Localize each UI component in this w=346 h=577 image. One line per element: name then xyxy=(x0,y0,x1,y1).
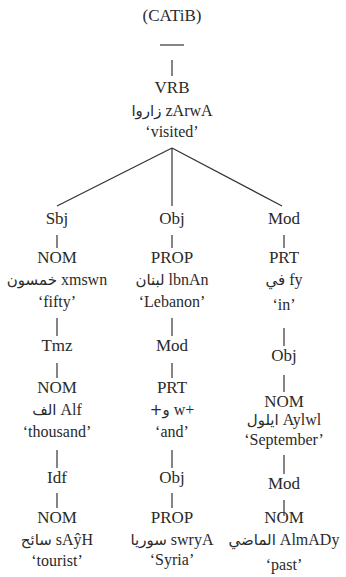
node-tag: NOM xyxy=(37,378,77,398)
translit-text: AlmADy xyxy=(280,531,340,548)
arabic-text: لبنان xyxy=(135,271,164,289)
node-tag: PROP xyxy=(151,508,194,528)
root-tag: VRB xyxy=(155,78,190,98)
rel-obj: Obj xyxy=(159,209,185,229)
edge-vrb-mod xyxy=(172,148,282,206)
rel-label: Mod xyxy=(156,336,188,356)
node-gloss: ‘fifty’ xyxy=(38,292,76,312)
tree-title: (CATiB) xyxy=(143,6,202,26)
node-word: لبنان lbnAn xyxy=(135,270,208,290)
node-tag: PROP xyxy=(151,248,194,268)
node-word: خمسون xmswn xyxy=(7,270,107,290)
translit-text: swryA xyxy=(171,531,214,548)
arabic-text: الماضي xyxy=(229,531,276,549)
node-word: في fy xyxy=(265,270,302,290)
translit-text: Alf xyxy=(60,401,81,418)
node-gloss: ‘past’ xyxy=(266,555,302,575)
node-word: سوريا swryA xyxy=(131,530,214,550)
arabic-text: خمسون xyxy=(7,271,57,289)
node-gloss: ‘tourist’ xyxy=(31,551,83,571)
rel-label: Obj xyxy=(271,346,297,366)
translit-text: w+ xyxy=(174,401,195,418)
translit-text: zArwA xyxy=(165,102,212,119)
translit-text: xmswn xyxy=(61,271,107,288)
node-gloss: ‘Lebanon’ xyxy=(139,292,206,312)
node-word: +و w+ xyxy=(150,400,194,420)
arabic-text: الف xyxy=(32,401,56,419)
arabic-text: ايلول xyxy=(247,411,279,429)
node-gloss: ‘in’ xyxy=(272,295,295,315)
translit-text: fy xyxy=(289,271,302,288)
node-tag: NOM xyxy=(264,392,304,412)
node-word: الماضي AlmADy xyxy=(229,530,340,550)
rel-label: Obj xyxy=(159,468,185,488)
rel-mod: Mod xyxy=(268,209,300,229)
node-gloss: ‘Syria’ xyxy=(150,550,194,570)
arabic-text: زاروا xyxy=(131,102,161,120)
edge-vrb-sbj xyxy=(57,148,172,206)
node-word: الف Alf xyxy=(32,400,82,420)
node-tag: NOM xyxy=(37,248,77,268)
translit-text: Aylwl xyxy=(283,411,322,428)
node-gloss: ‘September’ xyxy=(244,430,324,450)
node-tag: NOM xyxy=(37,508,77,528)
rel-label: Mod xyxy=(268,474,300,494)
arabic-text: في xyxy=(265,271,285,289)
arabic-text: سائح xyxy=(21,531,52,549)
root-word: زاروا zArwA xyxy=(131,101,212,121)
translit-text: sAŷH xyxy=(56,531,93,548)
node-tag: PRT xyxy=(157,378,187,398)
node-gloss: ‘and’ xyxy=(155,422,189,442)
node-tag: NOM xyxy=(264,508,304,528)
arabic-text: سوريا xyxy=(131,531,167,549)
node-word: سائح sAŷH xyxy=(21,530,93,550)
rel-label: Tmz xyxy=(41,336,72,356)
node-tag: PRT xyxy=(269,248,299,268)
node-gloss: ‘thousand’ xyxy=(23,422,91,442)
arabic-text: +و xyxy=(150,401,170,419)
node-word: ايلول Aylwl xyxy=(247,410,322,430)
rel-sbj: Sbj xyxy=(46,209,69,229)
translit-text: lbnAn xyxy=(169,271,209,288)
root-gloss: ‘visited’ xyxy=(145,122,198,142)
rel-label: Idf xyxy=(47,468,67,488)
